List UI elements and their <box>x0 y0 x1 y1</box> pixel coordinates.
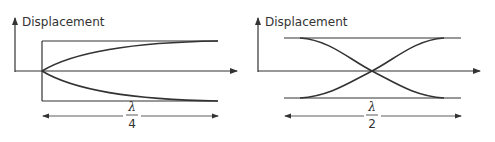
wave-curve-descending <box>300 38 444 98</box>
wave-lower-curve <box>42 71 218 101</box>
y-axis-label: Displacement <box>22 15 105 29</box>
half-wave-diagram: Displacement λ 2 <box>258 15 480 131</box>
length-numerator: λ <box>367 100 376 114</box>
y-axis-label: Displacement <box>265 15 348 29</box>
quarter-wave-diagram: Displacement λ 4 <box>15 15 237 131</box>
length-numerator: λ <box>127 100 136 114</box>
length-denominator: 4 <box>128 117 136 131</box>
length-denominator: 2 <box>368 117 376 131</box>
standing-wave-diagrams: Displacement λ 4 Displacement λ 2 <box>0 0 495 142</box>
wave-curve-ascending <box>300 38 444 98</box>
wave-upper-curve <box>42 41 218 71</box>
